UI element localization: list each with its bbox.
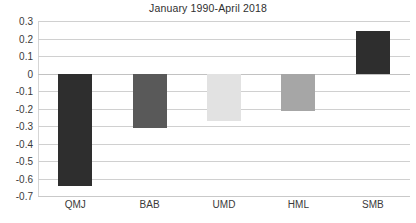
y-axis-tick-label: 0.1 [0,51,33,62]
y-axis-tick-label: -0.4 [0,138,33,149]
y-axis-tick-label: -0.2 [0,103,33,114]
x-axis-tick-labels: QMJBABUMDHMLSMB [38,199,410,219]
bar-qmj [58,74,92,187]
y-axis-tick-label: 0.2 [0,33,33,44]
y-axis-tick-label: -0.5 [0,156,33,167]
y-axis-tick-label: -0.1 [0,86,33,97]
gridline [38,144,410,145]
gridline [38,196,410,197]
gridline [38,161,410,162]
bar-smb [356,31,390,74]
chart-title: January 1990-April 2018 [0,2,416,14]
y-axis-tick-label: 0.3 [0,16,33,27]
plot-area [38,21,410,196]
gridline [38,179,410,180]
y-axis-tick-label: -0.6 [0,173,33,184]
bar-hml [281,74,315,112]
y-axis-tick-label: 0 [0,68,33,79]
x-axis-tick-label-qmj: QMJ [65,199,86,210]
gridline [38,39,410,40]
gridline [38,21,410,22]
bar-bab [133,74,167,128]
bar-chart: January 1990-April 2018 0.30.20.10-0.1-0… [0,0,416,223]
gridline [38,56,410,57]
x-axis-tick-label-umd: UMD [213,199,236,210]
gridline [38,126,410,127]
bar-umd [207,74,241,121]
y-axis-tick-label: -0.3 [0,121,33,132]
x-axis-tick-label-bab: BAB [140,199,160,210]
x-axis-tick-label-hml: HML [288,199,309,210]
y-axis-tick-label: -0.7 [0,191,33,202]
x-axis-tick-label-smb: SMB [362,199,384,210]
